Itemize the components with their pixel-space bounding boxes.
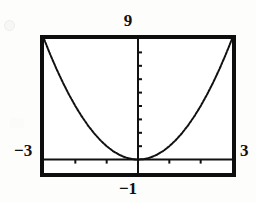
calculator-screen-inner [44,39,232,173]
window-ymin-label: −1 [0,180,256,197]
figure-root: 9 −3 3 −1 [0,0,256,203]
axes-group [44,39,232,173]
plot-canvas [44,39,232,173]
window-xmin-label: −3 [14,142,32,159]
scan-artifact-smudge [10,118,24,128]
window-ymax-label: 9 [0,12,256,29]
calculator-screen-frame [40,35,236,177]
window-xmax-label: 3 [240,142,249,159]
